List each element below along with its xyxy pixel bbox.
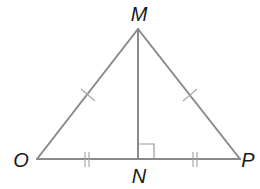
vertex-label-n: N (132, 166, 146, 186)
vertex-label-o: O (13, 150, 29, 170)
right-angle-marker (138, 144, 154, 159)
segment-mp (138, 29, 240, 159)
triangle-diagram: M O P N (0, 0, 260, 189)
vertex-label-m: M (131, 4, 148, 24)
tick-mark-mp (183, 89, 197, 101)
diagram-canvas (0, 0, 260, 189)
vertex-label-p: P (241, 150, 254, 170)
